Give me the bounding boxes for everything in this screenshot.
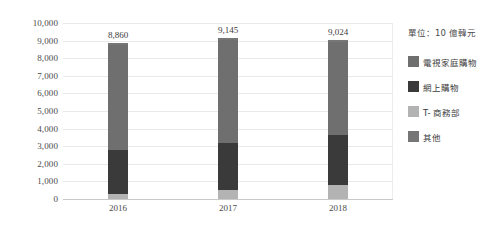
bar-column[interactable]: 9,145 [218,38,238,199]
bar-total-label: 8,860 [108,30,128,40]
y-axis-tick-label: 6,000 [0,88,58,98]
legend-item[interactable]: T- 商務部 [408,106,502,117]
bar-segment[interactable] [328,135,348,184]
x-axis-tick-label: 2016 [109,203,127,213]
y-axis-tick-label: 7,000 [0,71,58,81]
legend-swatch-icon [408,56,419,67]
legend-item[interactable]: 網上購物 [408,81,502,92]
y-axis-tick-label: 4,000 [0,124,58,134]
bar-segment[interactable] [218,143,238,191]
legend-swatch-icon [408,106,419,117]
bar-segment[interactable] [108,150,128,194]
y-axis-tick-label: 10,000 [0,18,58,28]
bar-segment[interactable] [218,190,238,199]
x-axis-tick-label: 2018 [329,203,347,213]
legend-swatch-icon [408,81,419,92]
y-axis-tick-label: 1,000 [0,176,58,186]
chart-legend: 單位：10 億韓元 電視家庭購物網上購物T- 商務部其他 [408,26,502,156]
bar-segment[interactable] [108,194,128,199]
legend-item-label: 網上購物 [423,81,459,93]
stacked-bar-chart: 01,0002,0003,0004,0005,0006,0007,0008,00… [0,0,502,240]
legend-item-label: 電視家庭購物 [423,56,477,68]
legend-item[interactable]: 其他 [408,131,502,142]
legend-item[interactable]: 電視家庭購物 [408,56,502,67]
y-axis-tick-label: 9,000 [0,36,58,46]
grid-line [63,23,393,24]
bar-total-label: 9,024 [328,27,348,37]
y-axis-tick-label: 2,000 [0,159,58,169]
y-axis: 01,0002,0003,0004,0005,0006,0007,0008,00… [0,23,58,199]
bar-segment[interactable] [328,42,348,136]
legend-item-label: T- 商務部 [423,106,460,118]
bar-column[interactable]: 8,860 [108,43,128,199]
plot-area: 8,8609,1459,024 [63,23,393,199]
bar-segment[interactable] [108,45,128,150]
y-axis-tick-label: 3,000 [0,141,58,151]
unit-note: 單位：10 億韓元 [408,26,502,38]
x-axis-tick-label: 2017 [219,203,237,213]
y-axis-tick-label: 8,000 [0,53,58,63]
bar-segment[interactable] [218,40,238,143]
y-axis-tick-label: 5,000 [0,106,58,116]
y-axis-tick-label: 0 [0,194,58,204]
legend-item-label: 其他 [423,131,441,143]
grid-line [63,199,393,200]
legend-swatch-icon [408,131,419,142]
bar-total-label: 9,145 [218,25,238,35]
x-axis: 201620172018 [63,201,393,219]
bar-column[interactable]: 9,024 [328,40,348,199]
bar-segment[interactable] [328,185,348,199]
